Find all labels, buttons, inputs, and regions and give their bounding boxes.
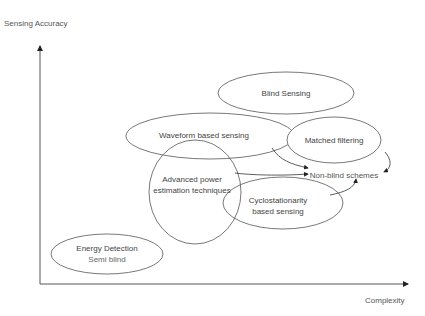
cyclostationarity-line2: based sensing [249, 206, 308, 217]
advanced-power-label: Advanced power estimation techniques [153, 174, 230, 196]
matched-filtering-label: Matched filtering [305, 135, 364, 146]
cyclostationarity-line1: Cyclostationarity [249, 195, 308, 206]
advanced-power-line1: Advanced power [153, 174, 230, 185]
blind-sensing-label: Blind Sensing [262, 88, 311, 99]
non-blind-schemes-label: Non-blind schemes [310, 170, 378, 181]
energy-detection-line1: Energy Detection [76, 243, 137, 254]
energy-detection-label: Energy Detection Semi blind [76, 243, 137, 265]
cyclostationarity-label: Cyclostationarity based sensing [249, 195, 308, 217]
arrow-matched-to-nonblind [384, 152, 390, 172]
x-axis-label: Complexity [365, 296, 405, 305]
advanced-power-line2: estimation techniques [153, 185, 230, 196]
arrow-advanced-to-nonblind [235, 173, 308, 175]
waveform-sensing-label: Waveform based sensing [159, 130, 249, 141]
diagram-canvas [0, 0, 425, 316]
energy-detection-line2: Semi blind [76, 254, 137, 265]
y-axis-label: Sensing Accuracy [4, 19, 68, 28]
